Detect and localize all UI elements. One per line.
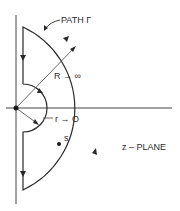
arrow-down-upper-icon (20, 55, 26, 61)
small-radius-label: r → O (55, 114, 79, 124)
point-s (57, 142, 61, 146)
arrow-down-lower-icon (20, 171, 26, 177)
point-s-label: s (64, 133, 69, 143)
contour-diagram: PATH Γ R → ∞ r → O s z – PLANE (0, 0, 180, 211)
arrow-big-arc-lower-icon (92, 148, 97, 155)
z-plane-label: z – PLANE (122, 142, 166, 152)
big-radius-label: R → ∞ (54, 71, 81, 81)
arrow-big-arc-upper-icon (63, 36, 69, 42)
path-gamma-label: PATH Γ (61, 15, 91, 25)
small-radius-arrowhead-icon (33, 119, 39, 125)
origin-point (14, 106, 19, 111)
